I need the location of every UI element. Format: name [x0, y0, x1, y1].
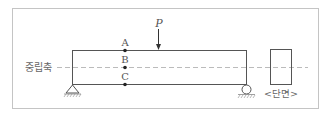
cross-section-rect	[271, 50, 292, 85]
point-c-marker	[123, 83, 127, 87]
section-label: <단면>	[264, 88, 298, 99]
point-a-label: A	[120, 37, 129, 48]
point-c-label: C	[121, 71, 129, 82]
neutral-axis-label: 중립축	[25, 61, 52, 73]
roller-support-icon	[238, 85, 255, 98]
point-b-marker	[123, 66, 127, 70]
point-a-marker	[123, 49, 127, 53]
load-arrow-head-icon	[156, 44, 161, 50]
load-label: P	[154, 17, 163, 30]
beam-diagram: A B C P 중립축 <단면>	[0, 0, 329, 116]
point-b-label: B	[121, 54, 128, 65]
pin-support-icon	[64, 85, 81, 97]
